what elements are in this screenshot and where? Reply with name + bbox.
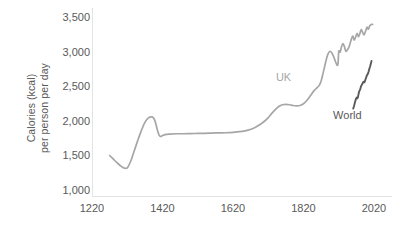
x-axis-tick-labels: 12201420162018202020 — [0, 203, 404, 219]
x-tick-label: 1620 — [208, 203, 258, 214]
series-label-uk: UK — [276, 72, 291, 83]
x-tick-label: 1420 — [138, 203, 188, 214]
x-tick-label: 1820 — [279, 203, 329, 214]
series-label-world: World — [333, 110, 362, 121]
uk-line-series — [110, 24, 373, 168]
x-tick-label: 2020 — [349, 203, 399, 214]
calories-line-chart: Calories (kcal) per person per day 1,000… — [0, 0, 404, 234]
x-tick-label: 1220 — [67, 203, 117, 214]
world-line-series — [353, 61, 371, 109]
